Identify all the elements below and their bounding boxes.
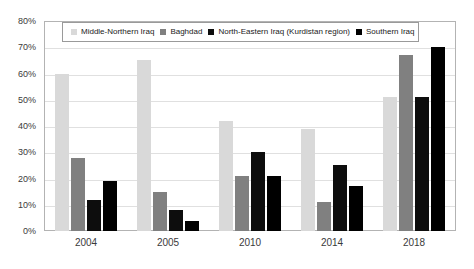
legend-label: Middle-Northern Iraq: [81, 28, 154, 36]
bar[interactable]: [235, 176, 249, 231]
x-axis-tick: 2014: [291, 236, 373, 258]
legend-item[interactable]: North-Eastern Iraq (Kurdistan region): [208, 28, 350, 36]
y-axis-tick: 70%: [18, 43, 36, 52]
legend-swatch-icon: [208, 29, 214, 35]
legend-label: Baghdad: [170, 28, 202, 36]
bar[interactable]: [333, 165, 347, 231]
bar[interactable]: [55, 74, 69, 232]
bar-group: [209, 22, 291, 231]
bar[interactable]: [399, 55, 413, 231]
y-axis-tick: 30%: [18, 148, 36, 157]
bar[interactable]: [103, 181, 117, 231]
bar[interactable]: [185, 221, 199, 232]
x-axis-tick: 2004: [45, 236, 127, 258]
y-axis: 0%10%20%30%40%50%60%70%80%: [0, 0, 40, 269]
bar[interactable]: [87, 200, 101, 232]
legend-item[interactable]: Southern Iraq: [356, 28, 414, 36]
bar[interactable]: [431, 47, 445, 231]
bar[interactable]: [71, 158, 85, 232]
y-axis-tick: 20%: [18, 174, 36, 183]
legend-label: Southern Iraq: [366, 28, 414, 36]
chart-legend: Middle-Northern IraqBaghdadNorth-Eastern…: [62, 22, 419, 42]
y-axis-tick: 60%: [18, 69, 36, 78]
legend-swatch-icon: [160, 29, 166, 35]
bar-group: [373, 22, 455, 231]
bar-group: [127, 22, 209, 231]
bar[interactable]: [317, 202, 331, 231]
bar[interactable]: [219, 121, 233, 231]
legend-swatch-icon: [356, 29, 362, 35]
legend-item[interactable]: Baghdad: [160, 28, 202, 36]
bar[interactable]: [137, 60, 151, 231]
bar[interactable]: [415, 97, 429, 231]
bar[interactable]: [169, 210, 183, 231]
legend-swatch-icon: [71, 29, 77, 35]
bar-groups: [45, 22, 455, 231]
x-axis-tick: 2018: [373, 236, 455, 258]
y-axis-tick: 50%: [18, 95, 36, 104]
bar[interactable]: [267, 176, 281, 231]
y-axis-tick: 0%: [23, 227, 36, 236]
x-axis-tick: 2005: [127, 236, 209, 258]
bar-group: [291, 22, 373, 231]
legend-item[interactable]: Middle-Northern Iraq: [71, 28, 154, 36]
y-axis-tick: 80%: [18, 17, 36, 26]
bar[interactable]: [349, 186, 363, 231]
y-axis-tick: 10%: [18, 200, 36, 209]
bar-group: [45, 22, 127, 231]
x-axis-tick: 2010: [209, 236, 291, 258]
bar[interactable]: [383, 97, 397, 231]
bar[interactable]: [153, 192, 167, 231]
x-axis: 20042005201020142018: [45, 236, 455, 258]
bar[interactable]: [301, 129, 315, 231]
y-axis-tick: 40%: [18, 122, 36, 131]
legend-label: North-Eastern Iraq (Kurdistan region): [218, 28, 350, 36]
bar[interactable]: [251, 152, 265, 231]
bar-chart: 0%10%20%30%40%50%60%70%80% 2004200520102…: [0, 0, 474, 269]
